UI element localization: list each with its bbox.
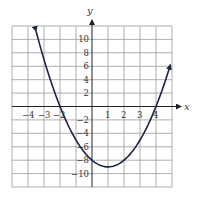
y-tick-label: −2: [76, 115, 89, 125]
x-tick-label: −3: [38, 110, 51, 120]
x-tick-labels: −4 −3 −2 1 2 3 4: [22, 110, 158, 120]
y-tick-label: 4: [84, 75, 89, 85]
x-tick-label: 1: [105, 110, 110, 120]
x-tick-label: 3: [137, 110, 142, 120]
x-tick-label: 2: [121, 110, 126, 120]
y-tick-label: 2: [84, 88, 89, 98]
parabola-graph: x y −4 −3 −2 1 2 3 4 10 8 6 4 2 −2 −4 −6…: [0, 0, 198, 197]
y-tick-label: 10: [78, 34, 89, 44]
y-tick-label: 6: [84, 61, 89, 71]
x-tick-label: −4: [22, 110, 35, 120]
y-axis-label: y: [86, 5, 93, 16]
y-tick-label: −4: [76, 128, 89, 138]
y-tick-label: 8: [84, 48, 89, 58]
y-tick-label: −8: [76, 155, 89, 165]
y-tick-label: −10: [71, 169, 89, 179]
x-axis-label: x: [184, 101, 190, 112]
